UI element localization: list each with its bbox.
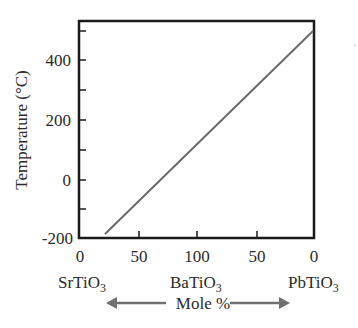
x-tick-label-100: 100 — [184, 247, 210, 266]
x-tick-label-50-left: 50 — [131, 247, 148, 266]
compound-label-srtio3: SrTiO3 — [58, 273, 106, 295]
x-tick-label-50-right: 50 — [249, 247, 266, 266]
y-tick-label-400: 400 — [46, 51, 72, 70]
y-tick-label-minus-200: -200 — [42, 229, 73, 248]
x-tick-label-0-right: 0 — [310, 247, 319, 266]
y-axis-title: Temperature (°C) — [12, 70, 31, 189]
compound-pbtio3-sub: 3 — [333, 281, 339, 295]
y-tick-label-0: 0 — [63, 171, 72, 190]
compound-srtio3-main: SrTiO — [58, 273, 100, 292]
data-line — [105, 31, 313, 234]
compound-batio3-sub: 3 — [216, 281, 222, 295]
stray-mark — [354, 45, 356, 46]
x-axis-title: Mole % — [176, 294, 230, 313]
compound-batio3-main: BaTiO — [170, 273, 216, 292]
y-tick-label-200: 200 — [46, 111, 72, 130]
compound-label-batio3: BaTiO3 — [170, 273, 222, 295]
chart: 400 200 0 -200 0 50 100 50 0 Temperature… — [0, 0, 358, 328]
compound-pbtio3-main: PbTiO — [288, 273, 333, 292]
compound-srtio3-sub: 3 — [100, 281, 106, 295]
plot-frame — [79, 21, 314, 238]
right-arrow-icon — [230, 297, 290, 309]
x-tick-label-0-left: 0 — [76, 247, 85, 266]
left-arrow-icon — [106, 297, 166, 309]
compound-label-pbtio3: PbTiO3 — [288, 273, 339, 295]
